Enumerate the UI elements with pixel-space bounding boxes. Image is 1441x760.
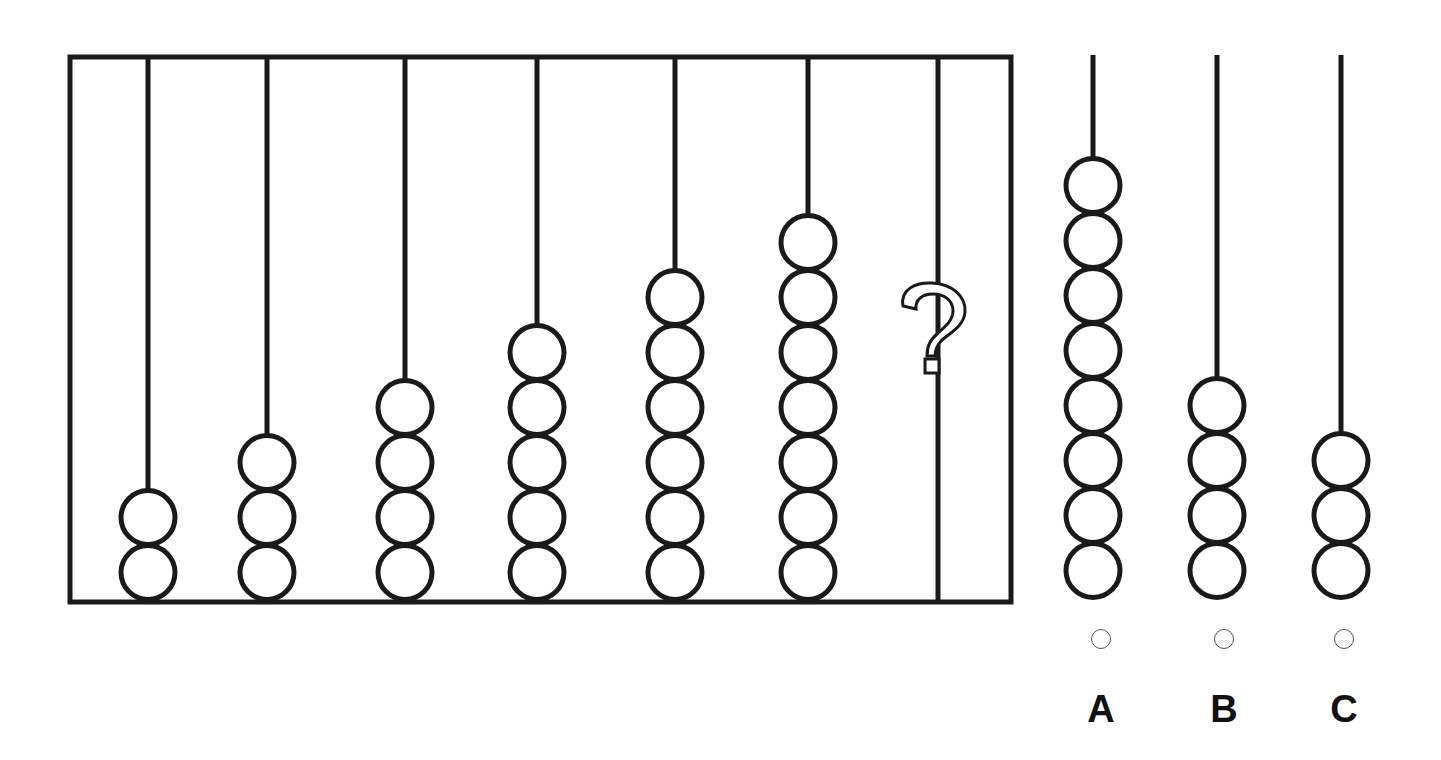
option-b-label[interactable]: B	[1194, 688, 1254, 731]
bead	[781, 491, 835, 545]
bead	[781, 546, 835, 600]
bead	[1190, 489, 1244, 543]
bead	[378, 381, 432, 435]
frame-rod-6	[781, 59, 835, 600]
bead	[1066, 324, 1120, 378]
bead	[1066, 489, 1120, 543]
option-b-radio[interactable]	[1214, 629, 1234, 649]
bead	[781, 326, 835, 380]
frame-rod-5	[648, 59, 702, 600]
bead	[1314, 489, 1368, 543]
bead	[240, 546, 294, 600]
bead	[781, 381, 835, 435]
bead	[1314, 434, 1368, 488]
option-rod-c	[1314, 55, 1368, 598]
option-rod-a	[1066, 55, 1120, 598]
frame-rod-2	[240, 59, 294, 600]
bead	[648, 326, 702, 380]
bead	[1066, 434, 1120, 488]
bead	[510, 436, 564, 490]
bead	[1190, 379, 1244, 433]
frame-rod-3	[378, 59, 432, 600]
option-c-radio[interactable]	[1334, 629, 1354, 649]
bead	[378, 491, 432, 545]
bead	[121, 546, 175, 600]
bead	[1314, 544, 1368, 598]
bead	[510, 326, 564, 380]
bead	[378, 546, 432, 600]
bead	[240, 436, 294, 490]
bead	[240, 491, 294, 545]
bead	[510, 491, 564, 545]
bead	[1066, 214, 1120, 268]
bead	[648, 381, 702, 435]
bead	[648, 436, 702, 490]
bead	[1066, 269, 1120, 323]
bead	[648, 546, 702, 600]
bead	[1066, 379, 1120, 433]
bead	[781, 436, 835, 490]
bead	[648, 271, 702, 325]
bead	[648, 491, 702, 545]
option-a-label[interactable]: A	[1071, 688, 1131, 731]
option-c-label[interactable]: C	[1314, 688, 1374, 731]
bead	[121, 491, 175, 545]
bead	[510, 381, 564, 435]
bead	[378, 436, 432, 490]
bead	[1066, 544, 1120, 598]
bead	[510, 546, 564, 600]
option-a-radio[interactable]	[1091, 629, 1111, 649]
option-rod-b	[1190, 55, 1244, 598]
bead	[781, 216, 835, 270]
option-rods	[1066, 55, 1368, 598]
bead	[1190, 434, 1244, 488]
frame-rod-1	[121, 59, 175, 600]
frame-rods	[121, 59, 938, 600]
question-mark-icon	[903, 283, 965, 373]
bead	[1066, 159, 1120, 213]
bead	[781, 271, 835, 325]
frame-rod-4	[510, 59, 564, 600]
bead	[1190, 544, 1244, 598]
